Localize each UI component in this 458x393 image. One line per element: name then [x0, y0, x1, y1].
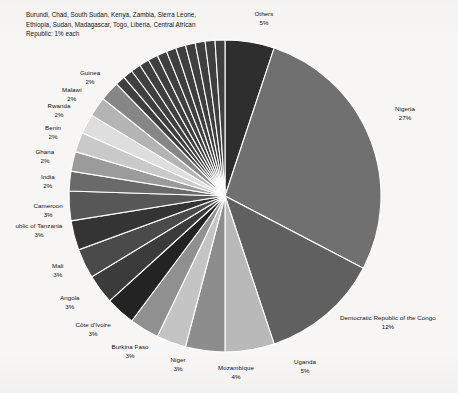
pie-label: Mali3%	[52, 262, 64, 279]
pie-label-percent: 2%	[45, 133, 61, 142]
pie-label-percent: 27%	[395, 114, 415, 123]
pie-label: Benin2%	[45, 124, 61, 141]
pie-label-percent: 5%	[294, 367, 316, 376]
pie-label-name: Guinea	[80, 69, 100, 78]
pie-label-name: Mozambique	[218, 364, 254, 373]
pie-label-percent: 2%	[41, 182, 55, 191]
pie-label-name: Democratic Republic of the Congo	[340, 314, 436, 323]
pie-label-percent: 3%	[34, 211, 63, 220]
pie-label-name: Mali	[52, 262, 64, 271]
pie-label: Nigeria27%	[395, 105, 415, 122]
pie-label: Malawi2%	[62, 86, 82, 103]
pie-label: Angola3%	[60, 294, 80, 311]
pie-label-percent: 3%	[52, 271, 64, 280]
pie-label: Cameroon3%	[34, 202, 63, 219]
pie-label: Burkina Faso3%	[112, 343, 149, 360]
pie-label-name: Burkina Faso	[112, 343, 149, 352]
pie-label-percent: 4%	[218, 373, 254, 382]
pie-label: Rwanda2%	[48, 102, 71, 119]
pie-label-percent: 2%	[48, 111, 71, 120]
pie-label-percent: 3%	[60, 303, 80, 312]
pie-label: Mozambique4%	[218, 364, 254, 381]
pie-chart	[0, 0, 458, 393]
pie-label-name: Ghana	[36, 148, 55, 157]
pie-label-name: ublic of Tanzania	[16, 222, 63, 231]
chart-page: Others5%Nigeria27%Democratic Republic of…	[0, 0, 458, 393]
pie-label-percent: 3%	[76, 330, 111, 339]
pie-label-name: Uganda	[294, 358, 316, 367]
pie-label-name: Others	[255, 10, 274, 19]
pie-label: India2%	[41, 173, 55, 190]
pie-label: Niger3%	[171, 356, 186, 373]
pie-label-percent: 2%	[80, 78, 100, 87]
pie-label-name: Malawi	[62, 86, 82, 95]
pie-label-name: Rwanda	[48, 102, 71, 111]
pie-label-name: Nigeria	[395, 105, 415, 114]
pie-label-name: Benin	[45, 124, 61, 133]
pie-label-name: India	[41, 173, 55, 182]
pie-label: Ghana2%	[36, 148, 55, 165]
pie-label-percent: 3%	[171, 365, 186, 374]
pie-label: Uganda5%	[294, 358, 316, 375]
pie-label-name: Côte d'Ivoire	[76, 321, 111, 330]
pie-label-percent: 2%	[62, 95, 82, 104]
pie-label-percent: 2%	[36, 157, 55, 166]
pie-label: Others5%	[255, 10, 274, 27]
pie-label-percent: 5%	[255, 19, 274, 28]
pie-label-percent: 3%	[112, 352, 149, 361]
pie-label: Guinea2%	[80, 69, 100, 86]
pie-label: Côte d'Ivoire3%	[76, 321, 111, 338]
footnote-one-percent-each: Burundi, Chad, South Sudan, Kenya, Zambi…	[26, 10, 212, 39]
pie-label: ublic of Tanzania3%	[16, 222, 63, 239]
pie-label-percent: 3%	[16, 231, 63, 240]
pie-label-name: Niger	[171, 356, 186, 365]
pie-label-name: Cameroon	[34, 202, 63, 211]
pie-label-percent: 12%	[340, 323, 436, 332]
pie-slice-group	[69, 40, 381, 352]
pie-label-name: Angola	[60, 294, 80, 303]
pie-label: Democratic Republic of the Congo12%	[340, 314, 436, 331]
